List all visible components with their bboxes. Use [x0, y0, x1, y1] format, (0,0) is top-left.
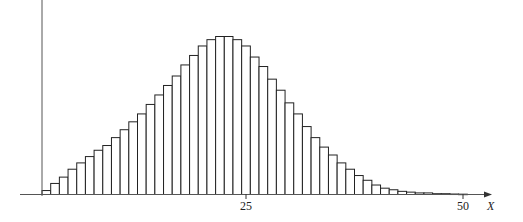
histogram-bar — [164, 85, 173, 194]
x-axis-arrow-icon — [484, 192, 492, 198]
histogram-bar — [77, 163, 86, 195]
histogram-bar — [94, 150, 103, 194]
histogram-bar — [363, 180, 372, 194]
histogram-bar — [59, 177, 68, 194]
histogram-bar — [302, 127, 311, 195]
histogram-bar — [42, 191, 51, 195]
histogram-bar — [51, 183, 60, 194]
histogram-bar — [198, 46, 207, 195]
histogram-bar — [311, 138, 320, 195]
histogram-bar — [320, 147, 329, 194]
histogram-bar — [224, 37, 233, 195]
histogram-bar — [85, 157, 94, 195]
x-tick-label-25: 25 — [240, 199, 252, 214]
histogram-bar — [346, 169, 355, 194]
histogram-bar — [68, 169, 77, 194]
histogram-chart — [0, 0, 523, 222]
histogram-bar — [129, 122, 138, 195]
histogram-bar — [268, 79, 277, 194]
histogram-bar — [146, 104, 155, 194]
histogram-bar — [337, 163, 346, 195]
histogram-bar — [138, 114, 147, 195]
bars — [42, 37, 467, 195]
histogram-bar — [372, 185, 381, 194]
histogram-bar — [294, 114, 303, 195]
histogram-bar — [207, 40, 216, 195]
histogram-bar — [103, 146, 112, 195]
histogram-bar — [190, 55, 199, 194]
histogram-bar — [328, 155, 337, 195]
histogram-bar — [172, 76, 181, 195]
histogram-bar — [111, 138, 120, 195]
histogram-bar — [259, 67, 268, 195]
histogram-bar — [381, 188, 390, 194]
histogram-bar — [276, 90, 285, 194]
x-axis-label: X — [487, 199, 494, 214]
histogram-bar — [181, 65, 190, 195]
x-tick-label-50: 50 — [457, 199, 469, 214]
histogram-bar — [233, 40, 242, 195]
histogram-bar — [155, 95, 164, 195]
histogram-bar — [216, 37, 225, 195]
histogram-bar — [389, 190, 398, 195]
histogram-bar — [285, 103, 294, 195]
histogram-bar — [120, 130, 129, 195]
histogram-bar — [355, 176, 364, 195]
histogram-bar — [242, 46, 251, 195]
histogram-bar — [250, 57, 259, 194]
